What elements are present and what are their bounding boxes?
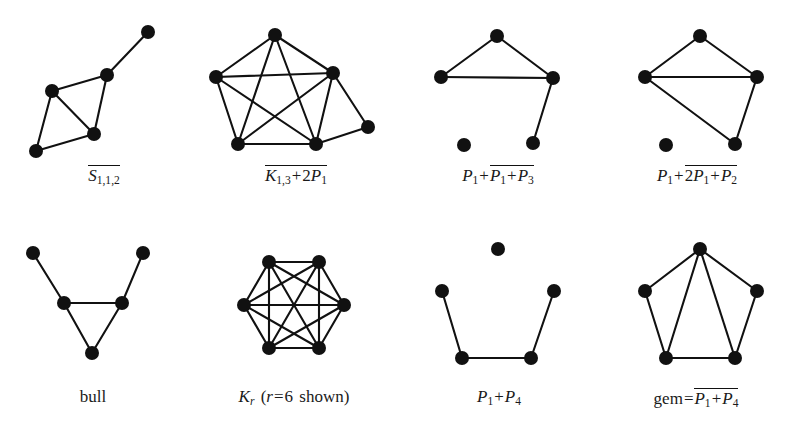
graph-bull	[26, 246, 150, 360]
caption-coefficient: 2	[302, 166, 311, 185]
graph-edge	[316, 127, 368, 144]
graph-vertex	[435, 284, 449, 298]
graph-edge	[64, 303, 92, 353]
graph-vertex	[326, 66, 340, 80]
graph-vertex	[141, 25, 155, 39]
graph-vertex	[115, 296, 129, 310]
graph-vertex	[87, 127, 101, 141]
graph-vertex	[29, 144, 43, 158]
caption-variable: r	[266, 387, 273, 406]
graph-edge	[700, 36, 757, 77]
graph-edge	[645, 291, 666, 358]
graph-vertex	[659, 351, 673, 365]
caption-subscript: 1,1,2	[97, 174, 120, 187]
graph-edge	[94, 75, 107, 134]
caption-word: shown	[299, 387, 343, 406]
graph-vertex	[750, 70, 764, 84]
graph-edge	[531, 291, 554, 358]
caption-symbol-2: P	[311, 166, 321, 185]
graph-vertex	[434, 70, 448, 84]
caption-subscript-2: 4	[515, 395, 521, 408]
graph-edge	[441, 77, 553, 78]
graph-vertex	[728, 351, 742, 365]
graph-edge	[533, 78, 553, 143]
graph-edge	[645, 36, 700, 77]
graph-vertex	[526, 136, 540, 150]
graph-vertex	[262, 341, 276, 355]
graph-edge	[52, 75, 107, 91]
graph-edge	[441, 36, 497, 77]
graph-p1-plus-p4	[435, 242, 561, 365]
caption-plus: +	[493, 387, 505, 406]
graph-vertex	[100, 68, 114, 82]
caption-subscript-2: 4	[733, 397, 739, 410]
graph-edge	[216, 77, 238, 144]
caption-number: 6	[285, 387, 294, 406]
caption-symbol: P	[477, 387, 487, 406]
graph-complement-k13-plus-2p1	[209, 28, 375, 151]
graph-vertex	[262, 255, 276, 269]
graph-edge	[92, 303, 122, 353]
graph-edge	[216, 77, 316, 144]
caption-plus: +	[673, 166, 685, 185]
graph-vertex	[312, 341, 326, 355]
graph-edge	[442, 291, 462, 358]
caption-symbol-2: P	[518, 166, 528, 185]
graph-edge	[275, 35, 333, 73]
caption-symbol-2: P	[722, 389, 732, 408]
graph-edge	[122, 253, 143, 303]
graph-edge	[700, 249, 757, 291]
graph-vertex	[546, 71, 560, 85]
caption-equals: =	[273, 387, 285, 406]
caption-symbol: S	[88, 166, 97, 185]
graph-edge	[52, 91, 94, 134]
caption-paren-close: )	[344, 387, 350, 406]
caption-p1-plus-complement-2p1p2: P1+2P1+P2	[598, 165, 796, 187]
caption-plus: +	[478, 166, 490, 185]
caption-plus-2: +	[506, 166, 518, 185]
caption-complement-s112: S1,1,2	[0, 165, 208, 187]
caption-lead-symbol: P	[462, 166, 472, 185]
graph-vertex	[455, 351, 469, 365]
graph-vertex	[45, 84, 59, 98]
graph-vertex	[237, 298, 251, 312]
graph-vertex	[309, 137, 323, 151]
caption-subscript-2: 1	[321, 174, 327, 187]
caption-subscript-2: 3	[528, 174, 534, 187]
caption-word: gem	[654, 389, 683, 408]
caption-p1-plus-complement-p1p3: P1+P1+P3	[400, 165, 596, 187]
caption-symbol: K	[239, 387, 250, 406]
graph-vertex	[312, 255, 326, 269]
graph-gem	[638, 242, 764, 365]
graph-edge	[735, 291, 757, 358]
graph-edge	[238, 35, 275, 144]
caption-plus-2: +	[709, 166, 721, 185]
graph-edge	[33, 253, 64, 303]
graph-vertex	[26, 246, 40, 260]
graph-p1-plus-complement-p1-plus-p3	[434, 29, 560, 152]
caption-subscript: 1	[705, 397, 711, 410]
graph-vertex	[728, 137, 742, 151]
caption-equals: =	[683, 389, 695, 408]
graph-vertex	[268, 28, 282, 42]
caption-plus: +	[711, 389, 723, 408]
caption-lead-symbol: P	[657, 166, 667, 185]
graph-vertex	[638, 70, 652, 84]
graph-edge	[333, 73, 368, 127]
caption-subscript-2: 2	[731, 174, 737, 187]
graph-vertex	[693, 242, 707, 256]
caption-gem: gem=P1+P4	[596, 388, 796, 410]
caption-symbol-2: P	[721, 166, 731, 185]
graph-p1-plus-complement-2p1-plus-p2	[638, 29, 764, 152]
graph-edge	[107, 32, 148, 75]
caption-symbol-2: P	[505, 387, 515, 406]
caption-symbol: P	[693, 166, 703, 185]
caption-kr: Kr (r=6 shown)	[186, 388, 402, 408]
graph-edge	[666, 249, 700, 358]
caption-coefficient: 2	[685, 166, 694, 185]
caption-text: bull	[80, 387, 106, 406]
caption-p1-plus-p4: P1+P4	[402, 388, 596, 408]
caption-bull: bull	[0, 388, 186, 405]
graph-edge	[735, 77, 757, 144]
graph-complement-s112	[29, 25, 155, 158]
